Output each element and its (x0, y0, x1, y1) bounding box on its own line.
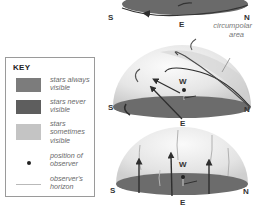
key-legend: KEY stars always visible stars never vis… (5, 57, 95, 197)
east-label: E (179, 20, 184, 29)
annotation-line: area (196, 31, 252, 40)
key-label: stars never visible (50, 98, 96, 115)
south-label: S (108, 103, 113, 112)
east-label: E (180, 198, 185, 207)
key-title: KEY (13, 63, 30, 72)
key-label: position of observer (50, 152, 96, 169)
key-label-line: visible (50, 84, 96, 92)
west-label: W (179, 77, 187, 86)
key-label: stars sometimes visible (50, 120, 96, 145)
observer-dot (181, 175, 185, 179)
key-label: stars always visible (50, 76, 96, 93)
key-label-line: observer (50, 160, 96, 168)
north-label: N (244, 105, 250, 114)
south-label: S (110, 186, 115, 195)
key-label-line: visible (50, 106, 96, 114)
key-label-line: visible (50, 137, 96, 145)
west-label: W (179, 160, 187, 169)
circumpolar-annotation: circumpolar area (196, 22, 252, 39)
trail-arrow-icon (146, 14, 150, 15)
east-label: E (180, 119, 185, 128)
horizon-line-icon (16, 184, 41, 185)
key-label: observer's horizon (50, 175, 96, 192)
observer-dot (182, 88, 186, 92)
observer-dot-icon (27, 161, 31, 165)
star-trail-arrow-icon (171, 155, 172, 196)
south-label: S (108, 13, 113, 22)
swatch-sometimes-visible (16, 124, 41, 140)
north-label: N (243, 187, 249, 196)
pole-diagram (122, 0, 248, 16)
key-label-line: horizon (50, 183, 96, 191)
horizon-disc (113, 96, 251, 118)
swatch-always-visible (16, 78, 41, 92)
swatch-never-visible (16, 100, 41, 114)
